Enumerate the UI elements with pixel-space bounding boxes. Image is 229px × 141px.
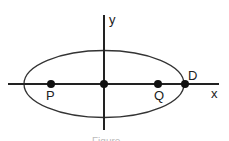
figure-caption: Figure bbox=[92, 136, 121, 141]
point-q bbox=[154, 80, 162, 88]
point-p-label: P bbox=[46, 88, 55, 103]
point-p bbox=[47, 80, 55, 88]
point-d-label: D bbox=[188, 68, 197, 83]
ellipse-diagram: y x P Q D Figure bbox=[0, 0, 229, 141]
x-axis-label: x bbox=[211, 86, 218, 101]
point-q-label: Q bbox=[154, 88, 164, 103]
y-axis-label: y bbox=[109, 12, 116, 27]
point-origin bbox=[100, 80, 108, 88]
